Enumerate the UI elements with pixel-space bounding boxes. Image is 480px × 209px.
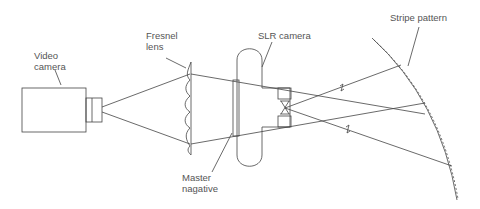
label-line: lens: [146, 41, 178, 52]
slr-lens-bottom: [278, 116, 291, 127]
label-video-camera: Video camera: [34, 50, 66, 72]
curved-screen: [372, 38, 457, 200]
leader-fresnel: [166, 58, 186, 68]
stripe-pattern: [374, 40, 458, 199]
label-line: Fresnel: [146, 30, 178, 41]
fresnel-lens: [185, 62, 191, 155]
label-line: Master: [182, 172, 218, 183]
ray-lower-1: [102, 112, 190, 144]
leader-slr: [262, 42, 272, 67]
ray-upper-3: [285, 65, 401, 108]
label-slr-camera: SLR camera: [258, 30, 311, 41]
label-line: camera: [34, 61, 66, 72]
slr-camera-body: [237, 49, 290, 167]
master-negative: [233, 80, 239, 136]
ray-upper-2: [191, 74, 425, 114]
ray-lower-3: [285, 108, 452, 166]
label-line: nagative: [182, 183, 218, 194]
label-fresnel-lens: Fresnel lens: [146, 30, 178, 52]
label-stripe-pattern: Stripe pattern: [390, 12, 447, 23]
video-camera-lens: [86, 98, 102, 122]
ray-upper-1: [102, 74, 190, 107]
slr-lens-elements: [280, 101, 290, 114]
leader-video-camera: [55, 70, 61, 85]
video-camera-body: [22, 88, 86, 132]
diagram-drawing: [0, 0, 480, 209]
label-master-negative: Master nagative: [182, 172, 218, 194]
ray-lower-2: [191, 103, 425, 144]
leader-stripe-pattern: [408, 27, 419, 66]
projection-setup-diagram: Video camera Fresnel lens SLR camera Mas…: [0, 0, 480, 209]
label-line: Video: [34, 50, 66, 61]
